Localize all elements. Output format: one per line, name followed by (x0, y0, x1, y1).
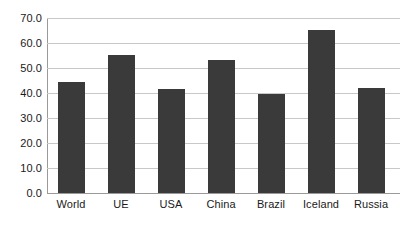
bar-china (208, 60, 235, 193)
y-axis-tick-0: 0.0 (0, 188, 42, 199)
y-axis-tick-30: 30.0 (0, 113, 42, 124)
y-axis-tick-60: 60.0 (0, 38, 42, 49)
bar-russia (358, 88, 385, 193)
bar-ue (108, 55, 135, 193)
y-axis-tick-40: 40.0 (0, 88, 42, 99)
bar-world (58, 82, 85, 193)
y-axis-tick-10: 10.0 (0, 163, 42, 174)
x-axis-tick-russia: Russia (341, 198, 401, 210)
bars-layer (47, 18, 400, 193)
bar-chart: 70.0 60.0 50.0 40.0 30.0 20.0 10.0 0.0 W… (0, 0, 411, 232)
y-axis-tick-50: 50.0 (0, 63, 42, 74)
y-axis-tick-20: 20.0 (0, 138, 42, 149)
bar-brazil (258, 94, 285, 194)
gridline-baseline-0 (47, 193, 400, 194)
x-axis-tick-labels: World UE USA China Brazil Iceland Russia (47, 198, 400, 218)
bar-iceland (308, 30, 335, 193)
bar-usa (158, 89, 185, 193)
y-axis-tick-70: 70.0 (0, 13, 42, 24)
y-axis-tick-labels: 70.0 60.0 50.0 40.0 30.0 20.0 10.0 0.0 (0, 0, 42, 232)
